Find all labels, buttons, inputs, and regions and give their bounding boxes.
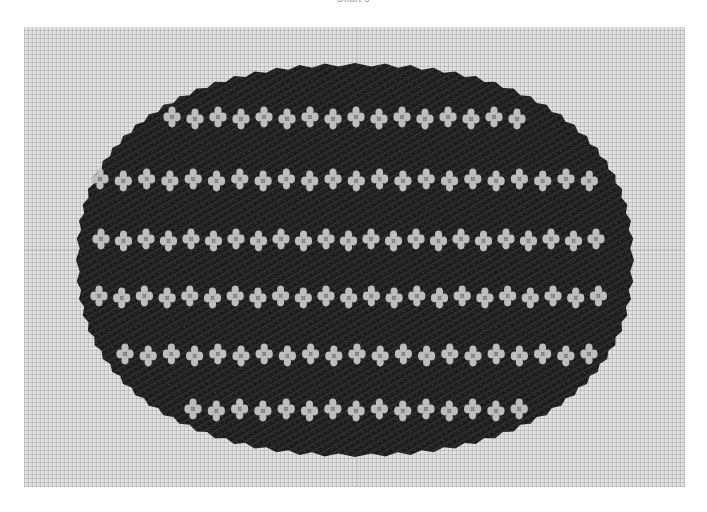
stitched-oval (0, 0, 707, 512)
motif-row (90, 286, 607, 309)
motif-row (92, 229, 604, 252)
